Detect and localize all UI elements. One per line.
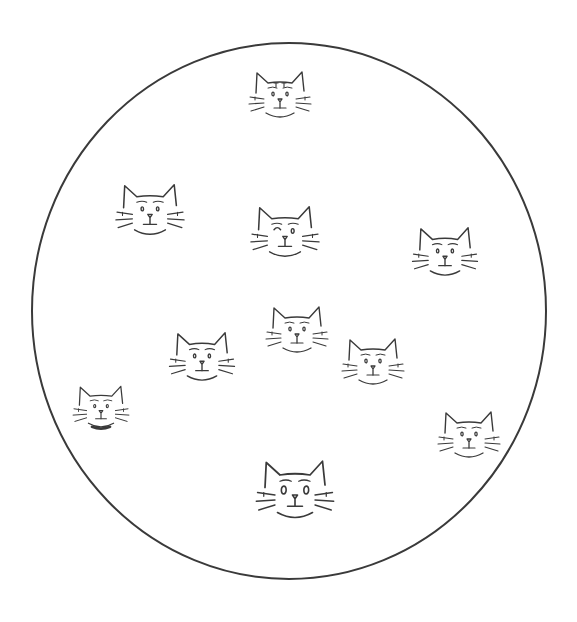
- cat-ears: [420, 228, 470, 250]
- cat-face: [73, 386, 129, 428]
- cat-chin: [187, 376, 216, 380]
- cat-forehead-stripes: [274, 83, 286, 87]
- cat-whiskers-right: [313, 332, 328, 346]
- cat-eye-left: [281, 486, 286, 494]
- cat-nose: [200, 361, 204, 370]
- cat-whiskers-right: [219, 359, 235, 374]
- cat-whiskers-right: [462, 254, 478, 269]
- cat-whiskers-right: [168, 212, 185, 227]
- cat-face: [342, 339, 404, 384]
- cat-face: [412, 228, 477, 275]
- cat-face: [116, 185, 184, 235]
- cat-whiskers-left: [342, 364, 357, 378]
- cat-chin: [430, 271, 459, 275]
- cat-brows: [272, 223, 298, 224]
- cat-ears: [256, 72, 304, 93]
- cat-whiskers-left: [73, 409, 87, 422]
- cat-nose: [371, 366, 375, 375]
- cat-eye-left: [272, 92, 274, 96]
- cat-whiskers-left: [412, 254, 428, 269]
- cat-eye-right: [451, 249, 453, 253]
- cat-eye-left: [436, 249, 438, 253]
- cat-eye-right: [475, 432, 477, 436]
- cat-brows: [137, 201, 163, 202]
- cat-face: [266, 307, 328, 352]
- cat-whiskers-left: [116, 212, 132, 227]
- cat-eye-right: [106, 404, 108, 407]
- cat-face: [169, 333, 234, 380]
- cat-whiskers-left: [251, 234, 268, 249]
- cat-eye-right: [291, 229, 294, 234]
- cat-brows: [285, 322, 309, 323]
- cat-brows: [361, 354, 385, 355]
- cat-ears: [349, 339, 397, 360]
- cat-nose: [148, 214, 152, 224]
- cat-eye-left: [365, 359, 367, 363]
- cat-chin: [266, 113, 294, 117]
- cat-brows: [457, 427, 481, 428]
- cat-face: [438, 412, 500, 457]
- cat-brows: [268, 87, 292, 88]
- cat-chin: [359, 380, 387, 384]
- cat-chin: [278, 513, 313, 518]
- cat-nose: [293, 495, 298, 506]
- cat-brows: [432, 244, 457, 245]
- cat-nose: [99, 411, 103, 419]
- cat-chin: [135, 230, 166, 234]
- cat-eye-left: [193, 354, 195, 358]
- cat-whiskers-right: [315, 493, 334, 511]
- cat-ears: [259, 207, 312, 230]
- cat-eye-right: [303, 327, 305, 331]
- cat-whiskers-left: [256, 493, 275, 511]
- cat-ears: [79, 386, 122, 405]
- cat-ears: [177, 333, 227, 355]
- cat-nose: [283, 236, 287, 246]
- cat-whiskers-left: [169, 359, 185, 374]
- cat-eye-right: [156, 207, 158, 211]
- cat-nose: [295, 334, 299, 343]
- cat-chin: [283, 348, 311, 352]
- cat-eye-left: [141, 207, 143, 211]
- cat-brows: [189, 349, 214, 350]
- cat-whiskers-right: [303, 234, 320, 249]
- cat-nose: [467, 439, 471, 448]
- cat-eye-right: [208, 354, 210, 358]
- cat-circle-illustration: [0, 0, 577, 622]
- cat-nose: [443, 256, 447, 265]
- cat-whiskers-right: [485, 437, 500, 451]
- cat-whiskers-left: [438, 437, 453, 451]
- cat-whiskers-right: [115, 409, 128, 422]
- cat-eye-right: [286, 92, 288, 96]
- cat-eye-left: [289, 327, 291, 331]
- cat-eye-left: [94, 404, 96, 407]
- cat-whiskers-right: [296, 97, 311, 111]
- cat-whiskers-right: [389, 364, 404, 378]
- cat-chin: [455, 453, 483, 457]
- cat-ears: [273, 307, 321, 328]
- cat-brows: [280, 480, 310, 481]
- cat-chin: [270, 252, 301, 256]
- cat-whiskers-left: [249, 97, 264, 111]
- cat-ears: [445, 412, 493, 433]
- cat-eye-right: [304, 486, 309, 494]
- cat-eye-right: [379, 359, 381, 363]
- cat-eye-left: [274, 228, 281, 230]
- cat-brows: [90, 400, 112, 401]
- cat-face: [249, 72, 311, 117]
- cat-faces-group: [73, 72, 500, 518]
- cat-ears: [124, 185, 177, 208]
- cat-nose: [278, 99, 282, 108]
- cat-eye-left: [461, 432, 463, 436]
- cat-face: [251, 207, 319, 257]
- cat-whiskers-left: [266, 332, 281, 346]
- cat-ears: [265, 461, 325, 487]
- cat-face: [256, 461, 334, 517]
- outer-circle: [32, 43, 546, 579]
